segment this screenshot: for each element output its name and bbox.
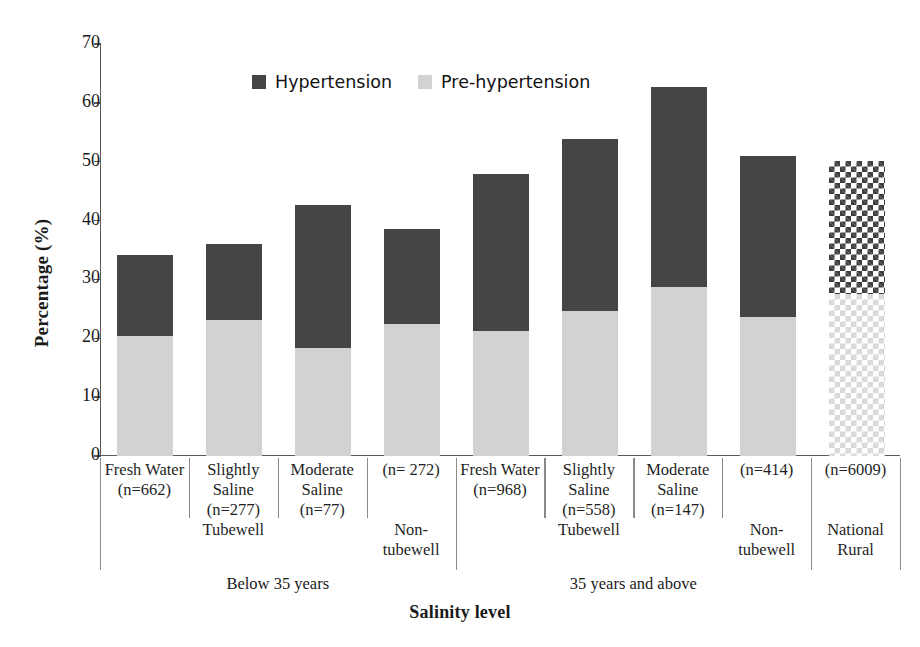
bar-segment-hypertension	[295, 205, 351, 347]
category-column-8: (n=414)Non-tubewell	[722, 458, 811, 586]
y-tick-label: 20	[66, 327, 100, 345]
bar-3	[295, 205, 351, 456]
y-tick-label: 60	[66, 92, 100, 110]
column-separator	[722, 458, 723, 518]
category-label: ModerateSaline(n=77)	[278, 460, 367, 520]
y-tick-label: 70	[66, 33, 100, 51]
bar-1	[117, 255, 173, 456]
category-column-2: SlightlySaline(n=277)Tubewell	[189, 458, 278, 586]
category-label: ModerateSaline(n=147)	[633, 460, 722, 520]
y-tick-label: 10	[66, 386, 100, 404]
group-label-1: Below 35 years	[100, 574, 456, 594]
bar-segment-pre-hypertension	[117, 336, 173, 456]
bar-segment-pre-hypertension	[473, 331, 529, 456]
category-label-table: Fresh Water(n=662)SlightlySaline(n=277)T…	[100, 458, 901, 586]
category-column-9: (n=6009)NationalRural	[811, 458, 900, 586]
bar-segment-pre-hypertension	[206, 320, 262, 456]
column-separator	[900, 458, 901, 570]
column-separator	[189, 458, 190, 518]
category-label: (n=6009)	[811, 460, 900, 480]
category-column-1: Fresh Water(n=662)	[100, 458, 189, 586]
bar-segment-hypertension	[473, 174, 529, 331]
bar-9	[829, 161, 885, 456]
category-sublabel: Non-tubewell	[722, 520, 811, 560]
group-label-2: 35 years and above	[456, 574, 812, 594]
bar-segment-hypertension	[829, 161, 885, 294]
bar-7	[651, 87, 707, 456]
column-separator	[367, 458, 368, 518]
bar-8	[740, 156, 796, 456]
column-separator	[100, 458, 101, 570]
x-axis-title: Salinity level	[0, 602, 920, 623]
column-separator	[633, 458, 634, 518]
bar-segment-pre-hypertension	[295, 348, 351, 456]
bar-segment-hypertension	[117, 255, 173, 336]
bar-4	[384, 229, 440, 456]
bar-segment-hypertension	[740, 156, 796, 316]
category-label: (n= 272)	[367, 460, 456, 480]
bar-segment-hypertension	[562, 139, 618, 311]
category-column-5: Fresh Water(n=968)	[456, 458, 545, 586]
category-column-7: ModerateSaline(n=147)	[633, 458, 722, 586]
bar-segment-pre-hypertension	[651, 287, 707, 457]
bar-segment-pre-hypertension	[740, 317, 796, 456]
plot-area	[101, 44, 901, 456]
chart-figure: Percentage (%) 010203040506070 Hypertens…	[0, 0, 920, 647]
category-label: SlightlySaline(n=277)	[189, 460, 278, 520]
column-separator	[544, 458, 545, 518]
bar-2	[206, 244, 262, 456]
category-column-4: (n= 272)Non-tubewell	[367, 458, 456, 586]
bar-segment-pre-hypertension	[829, 294, 885, 456]
bar-6	[562, 139, 618, 456]
y-tick-label: 40	[66, 210, 100, 228]
column-separator	[456, 458, 457, 570]
bar-5	[473, 174, 529, 457]
category-column-6: SlightlySaline(n=558)Tubewell	[544, 458, 633, 586]
category-sublabel: Non-tubewell	[367, 520, 456, 560]
bar-segment-pre-hypertension	[562, 311, 618, 456]
y-tick-label: 50	[66, 151, 100, 169]
bar-segment-hypertension	[206, 244, 262, 321]
category-label: Fresh Water(n=968)	[456, 460, 545, 500]
bar-segment-pre-hypertension	[384, 324, 440, 456]
category-sublabel: Tubewell	[189, 520, 278, 540]
y-axis-title: Percentage (%)	[31, 153, 53, 413]
bar-segment-hypertension	[384, 229, 440, 324]
y-tick-label: 30	[66, 268, 100, 286]
category-column-3: ModerateSaline(n=77)	[278, 458, 367, 586]
column-separator	[278, 458, 279, 518]
category-label: Fresh Water(n=662)	[100, 460, 189, 500]
category-label: SlightlySaline(n=558)	[544, 460, 633, 520]
category-sublabel: NationalRural	[811, 520, 900, 560]
bar-segment-hypertension	[651, 87, 707, 287]
y-tick-label: 0	[66, 445, 100, 463]
category-sublabel: Tubewell	[544, 520, 633, 540]
column-separator	[811, 458, 812, 570]
category-label: (n=414)	[722, 460, 811, 480]
